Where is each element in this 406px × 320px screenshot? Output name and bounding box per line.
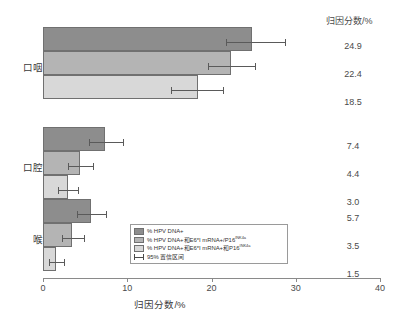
x-axis-tick: [296, 278, 297, 282]
error-bar-cap: [226, 39, 227, 46]
legend-item-mrna-p16: % HPV DNA+和E6*I mRNA+/P16INK4a: [134, 236, 284, 245]
chart-legend: % HPV DNA+ % HPV DNA+和E6*I mRNA+/P16INK4…: [130, 224, 288, 264]
category-label-oral-cavity: 口腔: [3, 160, 43, 174]
x-axis-tick: [127, 278, 128, 282]
bar-oropharynx-mrna-p16: [43, 51, 231, 75]
legend-label: % HPV DNA+: [147, 227, 184, 236]
x-axis-title: 归因分数/%: [0, 297, 406, 311]
error-bar-cap: [64, 259, 65, 266]
legend-swatch-icon: [134, 237, 144, 244]
error-bar-cap: [77, 211, 78, 218]
legend-swatch-icon: [134, 228, 144, 235]
category-label-larynx: 喉: [3, 232, 43, 246]
error-bar-cap: [62, 235, 63, 242]
legend-swatch-icon: [134, 245, 144, 252]
bar-oral-dna: [43, 127, 105, 151]
bar-larynx-mrna-p16: [43, 223, 72, 247]
error-bar-cap: [89, 139, 90, 146]
error-bar-line: [49, 262, 64, 263]
x-axis-tick-label: 0: [28, 283, 58, 293]
legend-item-confidence-interval: 95% 置信区间: [134, 253, 284, 262]
error-bar-line: [226, 42, 285, 43]
error-bar-cap: [84, 235, 85, 242]
x-axis-tick: [43, 278, 44, 282]
error-bar-cap: [68, 163, 69, 170]
error-bar-cap: [255, 63, 256, 70]
error-bar-line: [89, 142, 123, 143]
chart-container: 归因分数/% 24.9 22.4 18.5 7.4 4.4 3.0 5.7 3.…: [0, 0, 406, 320]
legend-label: % HPV DNA+和E6*I mRNA+/P16INK4a: [147, 236, 246, 245]
x-axis-tick-label: 30: [281, 283, 311, 293]
error-bar-cap: [93, 163, 94, 170]
error-bar-cap: [58, 187, 59, 194]
x-axis-tick: [212, 278, 213, 282]
error-bar-line: [208, 66, 255, 67]
error-bar-line: [77, 214, 106, 215]
legend-item-mrna-and-p16: % HPV DNA+和E6*I mRNA+和P16INK4a: [134, 244, 284, 253]
x-axis-tick-label: 40: [365, 283, 395, 293]
error-bar-line: [171, 90, 223, 91]
x-axis-tick-label: 20: [197, 283, 227, 293]
error-bar-cap: [49, 259, 50, 266]
x-axis-tick-label: 10: [112, 283, 142, 293]
error-bar-icon: [134, 254, 144, 261]
category-label-oropharynx: 口咽: [3, 60, 43, 74]
x-axis-tick: [380, 278, 381, 282]
error-bar-line: [58, 190, 78, 191]
error-bar-line: [68, 166, 92, 167]
error-bar-cap: [285, 39, 286, 46]
error-bar-cap: [123, 139, 124, 146]
legend-label: 95% 置信区间: [147, 253, 184, 262]
bar-oropharynx-mrna-and-p16: [43, 75, 198, 99]
error-bar-line: [62, 238, 84, 239]
legend-label: % HPV DNA+和E6*I mRNA+和P16INK4a: [147, 244, 250, 253]
error-bar-cap: [223, 87, 224, 94]
error-bar-cap: [208, 63, 209, 70]
error-bar-cap: [78, 187, 79, 194]
bar-oral-mrna-and-p16: [43, 175, 68, 199]
legend-item-dna: % HPV DNA+: [134, 227, 284, 236]
error-bar-cap: [171, 87, 172, 94]
bar-oropharynx-dna: [43, 27, 252, 51]
bar-larynx-dna: [43, 199, 91, 223]
bar-oral-mrna-p16: [43, 151, 80, 175]
error-bar-cap: [106, 211, 107, 218]
